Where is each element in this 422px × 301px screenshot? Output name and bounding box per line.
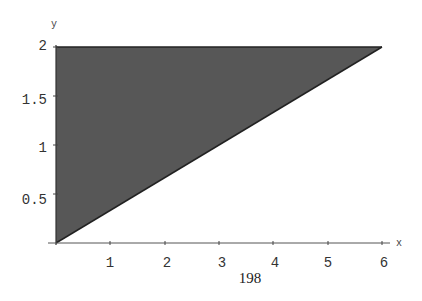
x-tick-label: 5 [324, 255, 332, 271]
x-axis-label: x [396, 238, 402, 249]
x-tick-label: 6 [380, 255, 388, 271]
y-tick-label: 1.5 [22, 92, 47, 108]
page-number: 198 [239, 270, 262, 286]
x-tick-label: 4 [271, 255, 279, 271]
y-tick-label: 0.5 [22, 192, 47, 208]
y-tick-label: 2 [39, 38, 47, 54]
x-tick-label: 1 [106, 255, 114, 271]
x-tick-label: 2 [163, 255, 171, 271]
y-tick-label: 1 [39, 140, 47, 156]
x-tick-label: 3 [218, 255, 226, 271]
y-axis-label: y [51, 19, 57, 30]
chart: 1 2 3 4 5 6 0.5 1 1.5 2 y x 198 [0, 0, 422, 301]
